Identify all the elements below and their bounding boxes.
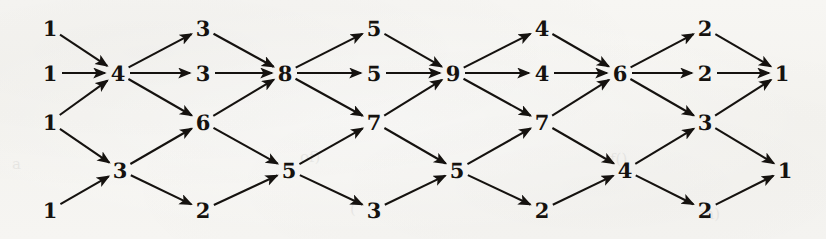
graph-node: 1 <box>775 63 790 84</box>
graph-edge-arrow <box>214 175 277 204</box>
graph-edge-arrow <box>636 175 694 204</box>
graph-edge-arrow <box>635 129 694 164</box>
graph-edge-arrow <box>296 34 363 68</box>
graph-edge-arrow <box>385 176 445 205</box>
graph-node: 3 <box>196 18 211 39</box>
graph-edge-arrow <box>464 34 531 68</box>
graph-node: 3 <box>113 160 128 181</box>
graph-edge-arrow <box>715 80 771 116</box>
graph-edge-arrow <box>60 176 108 204</box>
graph-edge-arrow <box>716 176 774 205</box>
graph-edge-arrow <box>715 34 770 66</box>
graph-node: 4 <box>111 63 126 84</box>
graph-node: 3 <box>367 200 382 221</box>
graph-edge-arrow <box>60 35 107 66</box>
graph-node: 6 <box>196 112 211 133</box>
graph-node: 2 <box>535 200 550 221</box>
graph-edge-arrow <box>552 80 609 116</box>
graph-node: 5 <box>367 63 382 84</box>
graph-edge-arrow <box>300 175 362 204</box>
graph-edge-arrow <box>468 175 530 204</box>
graph-node: 1 <box>778 160 793 181</box>
graph-edge-arrow <box>552 128 613 163</box>
graph-node: 3 <box>698 112 713 133</box>
graph-edge-arrow <box>129 34 192 67</box>
graph-edge-arrow <box>384 80 442 116</box>
graph-node: 8 <box>278 63 293 84</box>
graph-node: 2 <box>698 63 713 84</box>
graph-edge-arrow <box>60 81 108 115</box>
graph-edge-arrow <box>299 128 362 164</box>
graph-edge-arrow <box>213 80 274 116</box>
graph-node: 2 <box>698 18 713 39</box>
graph-edge-arrow <box>384 34 441 67</box>
graph-edge-arrow <box>715 128 774 163</box>
graph-node: 2 <box>698 200 713 221</box>
graph-edge-arrow <box>467 128 530 164</box>
graph-node: 5 <box>282 160 297 181</box>
graph-node: 2 <box>196 200 211 221</box>
graph-node: 9 <box>446 63 461 84</box>
graph-node: 1 <box>43 18 58 39</box>
graph-figure: aof)(f()m) 11114333628555739544726422321… <box>0 0 826 239</box>
graph-node: 7 <box>535 112 550 133</box>
graph-edge-arrow <box>552 34 608 67</box>
graph-edges <box>60 34 774 205</box>
graph-node: 1 <box>43 112 58 133</box>
graph-node: 5 <box>450 160 465 181</box>
graph-edge-arrow <box>60 129 109 163</box>
graph-edge-arrow <box>128 79 191 116</box>
graph-edge-arrow <box>214 34 274 67</box>
graph-node: 4 <box>535 63 550 84</box>
graph-edge-arrow <box>130 129 191 164</box>
graph-node: 4 <box>618 160 633 181</box>
graph-node: 1 <box>43 63 58 84</box>
graph-node: 6 <box>613 63 628 84</box>
graph-edge-arrow <box>631 34 694 67</box>
graph-edge-arrow <box>131 175 191 204</box>
graph-edge-arrow <box>384 128 445 163</box>
graph-node: 3 <box>196 63 211 84</box>
graph-edge-arrow <box>630 79 693 116</box>
graph-edge-arrow <box>296 79 363 116</box>
graph-node: 1 <box>43 200 58 221</box>
graph-edge-arrow <box>553 176 613 205</box>
graph-node: 7 <box>367 112 382 133</box>
graph-node: 5 <box>367 18 382 39</box>
graph-edge-arrow <box>213 128 277 164</box>
graph-edge-arrow <box>464 79 531 116</box>
graph-node: 4 <box>535 18 550 39</box>
